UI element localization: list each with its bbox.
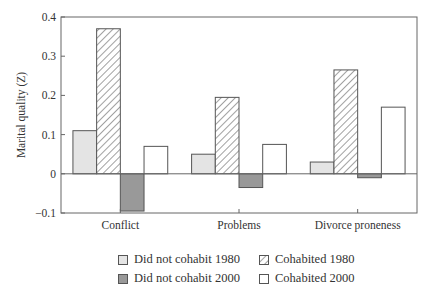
y-tick-label: −0.1 — [35, 207, 56, 219]
x-category-label: Conflict — [101, 219, 139, 231]
bar — [358, 174, 382, 178]
y-tick-label: 0.3 — [42, 50, 57, 62]
bars — [73, 29, 405, 211]
y-tick-label: 0.4 — [42, 11, 57, 23]
y-axis-label: Marital quality (Z) — [15, 72, 28, 158]
x-category-label: Divorce proneness — [315, 219, 401, 232]
bar — [215, 97, 239, 173]
y-tick-label: 0 — [50, 168, 56, 180]
bar — [334, 70, 358, 174]
bar — [310, 162, 334, 174]
bar — [73, 131, 97, 174]
bar — [120, 174, 144, 211]
bar — [239, 174, 263, 188]
bar — [144, 146, 168, 173]
bar — [192, 154, 216, 174]
x-category-label: Problems — [217, 219, 261, 231]
y-tick-label: 0.1 — [42, 129, 57, 141]
bar — [97, 29, 121, 174]
bar-chart: −0.100.10.20.30.4ConflictProblemsDivorce… — [0, 0, 429, 294]
y-tick-label: 0.2 — [42, 89, 57, 101]
bar — [381, 107, 405, 174]
bar — [263, 144, 287, 173]
